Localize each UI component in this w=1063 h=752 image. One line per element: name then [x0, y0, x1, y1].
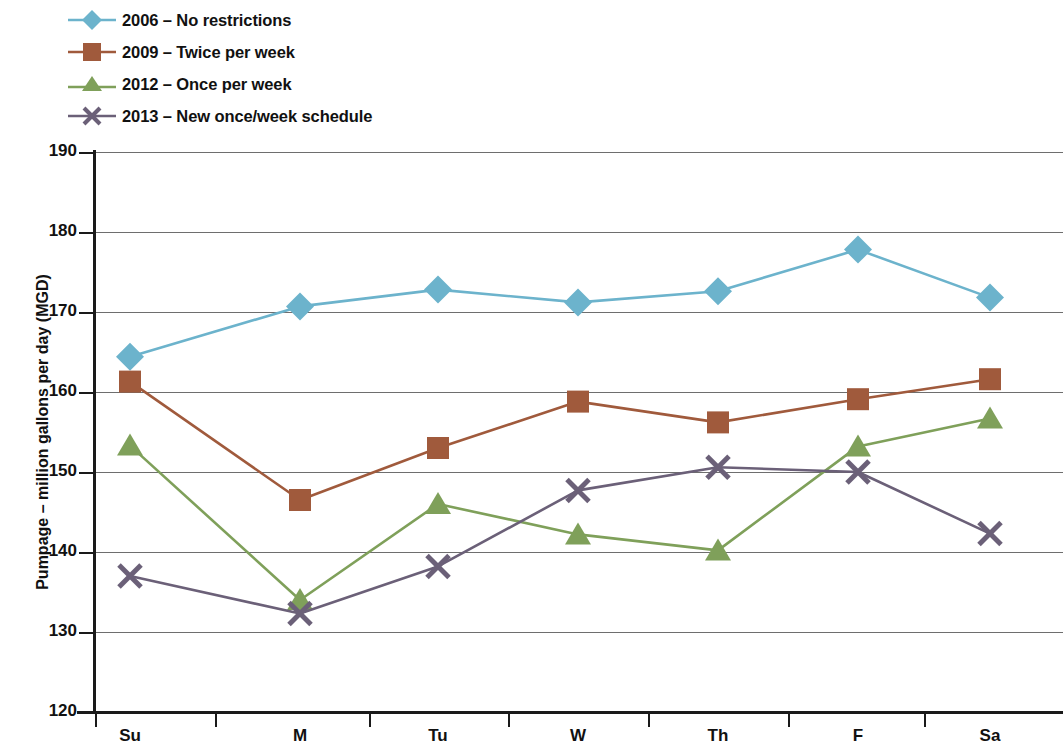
- data-point-marker: [427, 555, 449, 577]
- pumpage-line-chart: 2006 – No restrictions 2009 – Twice per …: [0, 0, 1063, 752]
- data-point-marker: [704, 277, 732, 305]
- series-line: [130, 467, 990, 613]
- data-point-marker: [979, 523, 1001, 545]
- series-layer: [0, 0, 1063, 752]
- series-3: [117, 406, 1003, 610]
- data-point-marker: [567, 391, 589, 413]
- data-point-marker: [564, 288, 592, 316]
- data-point-marker: [424, 276, 452, 304]
- data-point-marker: [847, 388, 869, 410]
- data-point-marker: [119, 565, 141, 587]
- series-4: [119, 456, 1001, 624]
- data-point-marker: [289, 489, 311, 511]
- data-point-marker: [427, 437, 449, 459]
- series-line: [130, 250, 990, 357]
- series-1: [116, 236, 1004, 371]
- data-point-marker: [979, 368, 1001, 390]
- data-point-marker: [707, 411, 729, 433]
- data-point-marker: [116, 343, 144, 371]
- data-point-marker: [425, 492, 451, 514]
- data-point-marker: [117, 434, 143, 456]
- plot-area: 120130140150160170180190 SuMTuWThFSa: [0, 0, 1063, 752]
- data-point-marker: [119, 371, 141, 393]
- data-point-marker: [976, 284, 1004, 312]
- data-point-marker: [977, 406, 1003, 428]
- data-point-marker: [286, 292, 314, 320]
- series-2: [119, 368, 1001, 511]
- data-point-marker: [844, 236, 872, 264]
